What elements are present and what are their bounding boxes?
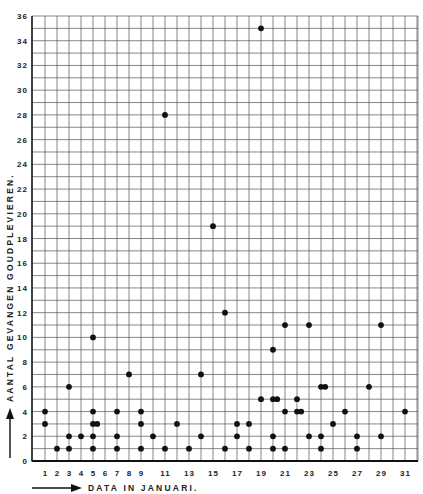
x-tick-label: 9	[139, 469, 144, 478]
data-point	[138, 409, 144, 415]
data-point	[126, 372, 132, 378]
x-tick-label: 3	[67, 469, 72, 478]
y-axis-title-group: AANTAL GEVANGEN GOUDPLEVIEREN.	[5, 173, 15, 458]
x-axis-arrow-icon	[71, 484, 82, 492]
x-tick-label: 31	[400, 469, 411, 478]
y-tick-label: 26	[17, 136, 28, 145]
data-point	[90, 446, 96, 452]
data-point	[306, 322, 312, 328]
data-point	[318, 433, 324, 439]
data-point	[330, 421, 336, 427]
data-point	[198, 372, 204, 378]
data-point	[78, 433, 84, 439]
y-tick-label: 12	[17, 309, 28, 318]
y-tick-label: 28	[17, 111, 28, 120]
x-tick-label: 5	[91, 469, 96, 478]
y-tick-label: 10	[17, 333, 28, 342]
data-point	[54, 446, 60, 452]
data-point	[222, 310, 228, 316]
chart-grid	[32, 16, 418, 461]
data-point	[114, 446, 120, 452]
y-tick-label: 30	[17, 86, 28, 95]
data-point	[90, 334, 96, 340]
y-tick-label: 36	[17, 12, 28, 21]
data-point	[378, 322, 384, 328]
x-tick-label: 1	[43, 469, 48, 478]
x-tick-label: 27	[352, 469, 363, 478]
data-point	[162, 112, 168, 118]
data-point	[282, 409, 288, 415]
data-point	[234, 421, 240, 427]
data-point	[42, 409, 48, 415]
data-point	[318, 446, 324, 452]
y-tick-label: 14	[17, 284, 28, 293]
y-tick-label: 4	[23, 408, 28, 417]
data-point	[150, 433, 156, 439]
data-point	[258, 396, 264, 402]
data-point	[270, 347, 276, 353]
y-tick-label: 20	[17, 210, 28, 219]
y-tick-label: 6	[23, 383, 28, 392]
y-axis-title: AANTAL GEVANGEN GOUDPLEVIEREN.	[5, 173, 15, 402]
x-tick-label: 21	[280, 469, 291, 478]
data-point	[66, 446, 72, 452]
data-point	[378, 433, 384, 439]
data-point	[402, 409, 408, 415]
data-point	[162, 446, 168, 452]
y-axis-ticks: 024681012141618202224262830323436	[17, 12, 28, 466]
data-point	[246, 446, 252, 452]
y-tick-label: 8	[23, 358, 28, 367]
data-point	[354, 433, 360, 439]
data-point	[66, 433, 72, 439]
data-point	[114, 433, 120, 439]
data-point	[306, 433, 312, 439]
data-point	[186, 446, 192, 452]
y-tick-label: 2	[23, 432, 28, 441]
x-tick-label: 2	[55, 469, 60, 478]
x-tick-label: 11	[160, 469, 170, 478]
x-tick-label: 23	[304, 469, 315, 478]
data-point	[270, 433, 276, 439]
data-point	[114, 409, 120, 415]
data-point	[354, 446, 360, 452]
data-point	[138, 421, 144, 427]
x-tick-label: 6	[103, 469, 108, 478]
x-axis-title: DATA IN JANUARI.	[88, 483, 199, 493]
x-tick-label: 19	[256, 469, 267, 478]
data-point	[222, 446, 228, 452]
y-tick-label: 34	[17, 37, 28, 46]
y-tick-label: 16	[17, 259, 28, 268]
data-point	[198, 433, 204, 439]
y-tick-label: 18	[17, 235, 28, 244]
y-axis-arrow-icon	[6, 408, 14, 419]
data-point	[138, 446, 144, 452]
data-point	[66, 384, 72, 390]
data-point	[234, 433, 240, 439]
data-point	[322, 384, 328, 390]
x-tick-label: 15	[208, 469, 219, 478]
y-tick-label: 24	[17, 160, 28, 169]
y-tick-label: 32	[17, 61, 28, 70]
data-point	[294, 396, 300, 402]
data-point	[258, 25, 264, 31]
x-tick-label: 4	[79, 469, 84, 478]
y-tick-label: 0	[23, 457, 28, 466]
data-point	[90, 409, 96, 415]
data-point	[174, 421, 180, 427]
data-point	[210, 223, 216, 229]
data-point	[282, 446, 288, 452]
x-tick-label: 7	[115, 469, 120, 478]
data-point	[282, 322, 288, 328]
data-point	[94, 421, 100, 427]
data-point	[246, 421, 252, 427]
x-tick-label: 25	[328, 469, 339, 478]
x-tick-label: 8	[127, 469, 132, 478]
data-point	[366, 384, 372, 390]
x-tick-label: 17	[232, 469, 243, 478]
x-tick-label: 29	[376, 469, 387, 478]
y-tick-label: 22	[17, 185, 28, 194]
scatter-chart: 024681012141618202224262830323436 123456…	[0, 0, 423, 494]
x-tick-label: 13	[184, 469, 195, 478]
x-axis-ticks: 1234567891113151719212325272931	[43, 469, 411, 478]
data-point	[90, 433, 96, 439]
